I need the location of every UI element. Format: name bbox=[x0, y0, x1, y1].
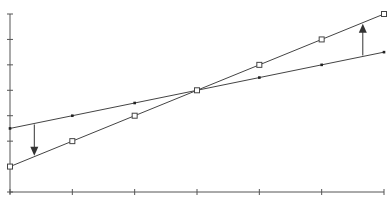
chart-markers bbox=[8, 12, 387, 170]
filled-dot-marker bbox=[133, 102, 136, 105]
line-chart bbox=[0, 0, 391, 203]
filled-dot-marker bbox=[258, 76, 261, 79]
chart-canvas bbox=[0, 0, 391, 203]
open-square-marker bbox=[257, 62, 262, 67]
filled-dot-marker bbox=[71, 114, 74, 117]
arrow-head bbox=[30, 147, 38, 156]
filled-dot-marker bbox=[320, 64, 323, 67]
arrow-down-icon bbox=[30, 124, 38, 155]
arrow-head bbox=[359, 24, 367, 33]
open-square-marker bbox=[382, 12, 387, 17]
open-square-marker bbox=[319, 37, 324, 42]
open-square-marker bbox=[195, 88, 200, 93]
filled-dot-marker bbox=[383, 51, 386, 54]
chart-axes bbox=[7, 14, 384, 195]
open-square-marker bbox=[70, 139, 75, 144]
arrow-up-icon bbox=[359, 24, 367, 56]
open-square-marker bbox=[132, 113, 137, 118]
open-square-marker bbox=[8, 164, 13, 169]
filled-dot-marker bbox=[9, 127, 12, 130]
